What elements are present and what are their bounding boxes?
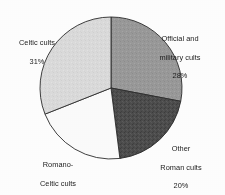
slice-value: 31% [4, 57, 70, 66]
slice-label-line2: Roman cults [148, 163, 214, 172]
slice-label-line1: Other [148, 144, 214, 153]
slice-label-celtic-cults: Celtic cults 31% [4, 29, 70, 75]
pie-chart-figure: Official and military cults 28% Other Ro… [0, 0, 225, 195]
slice-value: 28% [146, 71, 214, 80]
slice-label-romano-celtic-cults: Romano- Celtic cults 21% [22, 151, 94, 195]
slice-label-line2: military cults [146, 53, 214, 62]
slice-label-line2: Celtic cults [22, 179, 94, 188]
slice-label-line1: Celtic cults [4, 38, 70, 47]
slice-label-other-roman-cults: Other Roman cults 20% [148, 135, 214, 195]
slice-label-official-and-military-cults: Official and military cults 28% [146, 25, 214, 89]
slice-value: 20% [148, 181, 214, 190]
slice-label-line1: Official and [146, 34, 214, 43]
slice-label-line1: Romano- [22, 160, 94, 169]
